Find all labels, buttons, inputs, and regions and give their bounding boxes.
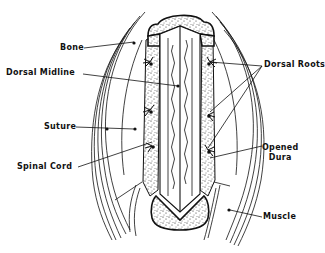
- label-bone: Bone: [60, 43, 84, 53]
- spinal-cord: [160, 26, 200, 212]
- label-muscle: Muscle: [263, 212, 296, 222]
- label-opened-dura-line2: Dura: [262, 153, 299, 163]
- label-dorsal-roots: Dorsal Roots: [264, 60, 325, 70]
- label-dorsal-midline: Dorsal Midline: [6, 68, 75, 78]
- label-spinal-cord: Spinal Cord: [17, 162, 72, 172]
- label-opened-dura: Opened Dura: [262, 143, 299, 163]
- label-suture: Suture: [44, 122, 76, 132]
- label-opened-dura-line1: Opened: [262, 143, 299, 153]
